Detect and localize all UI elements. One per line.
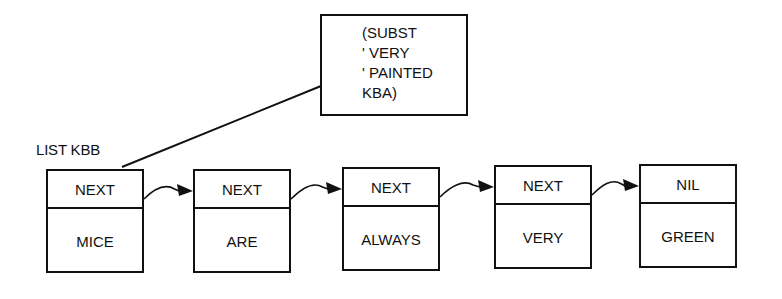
node-pointer: NIL [641,166,735,204]
arrowhead-icon [478,180,494,192]
node-value: ARE [195,209,289,273]
list-node-green: NIL GREEN [639,164,737,268]
annotation-line: ' VERY [362,44,410,61]
node-pointer: NEXT [195,171,289,209]
linked-list-diagram: LIST KBB (SUBST ' VERY ' PAINTED KBA) NE… [0,0,782,299]
next-pointer-arrow [592,182,625,195]
list-node-very: NEXT VERY [494,165,592,269]
node-pointer: NEXT [496,167,590,205]
node-value: GREEN [641,204,735,268]
arrowhead-icon [623,179,639,191]
next-pointer-arrow [144,187,179,199]
annotation-line: KBA) [362,84,397,101]
annotation-connector [122,86,321,167]
list-node-are: NEXT ARE [193,169,291,273]
list-label: LIST KBB [36,141,100,158]
node-value: VERY [496,205,590,269]
annotation-box: (SUBST ' VERY ' PAINTED KBA) [320,14,468,116]
next-pointer-arrow [440,183,480,197]
node-value: MICE [48,209,142,273]
list-node-always: NEXT ALWAYS [342,167,440,271]
arrowhead-icon [326,182,342,194]
node-value: ALWAYS [344,207,438,271]
list-node-mice: NEXT MICE [46,169,144,273]
annotation-line: (SUBST [362,24,417,41]
node-pointer: NEXT [48,171,142,209]
arrowhead-icon [177,184,193,196]
next-pointer-arrow [291,185,328,199]
node-pointer: NEXT [344,169,438,207]
annotation-line: ' PAINTED [362,64,433,81]
